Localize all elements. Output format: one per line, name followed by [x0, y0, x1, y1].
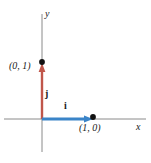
point-10-dot: [90, 114, 96, 120]
y-axis-label: y: [45, 9, 49, 19]
x-axis-label: x: [136, 122, 140, 132]
point-01-dot: [39, 59, 45, 65]
point-10-label: (1, 0): [79, 123, 101, 133]
vector-i-label: i: [64, 101, 67, 111]
coordinate-plane-svg: [0, 0, 151, 163]
point-01-label: (0, 1): [9, 61, 31, 71]
vector-diagram-figure: (0, 1) (1, 0) x y j i: [0, 0, 151, 163]
vector-j-label: j: [45, 89, 48, 99]
